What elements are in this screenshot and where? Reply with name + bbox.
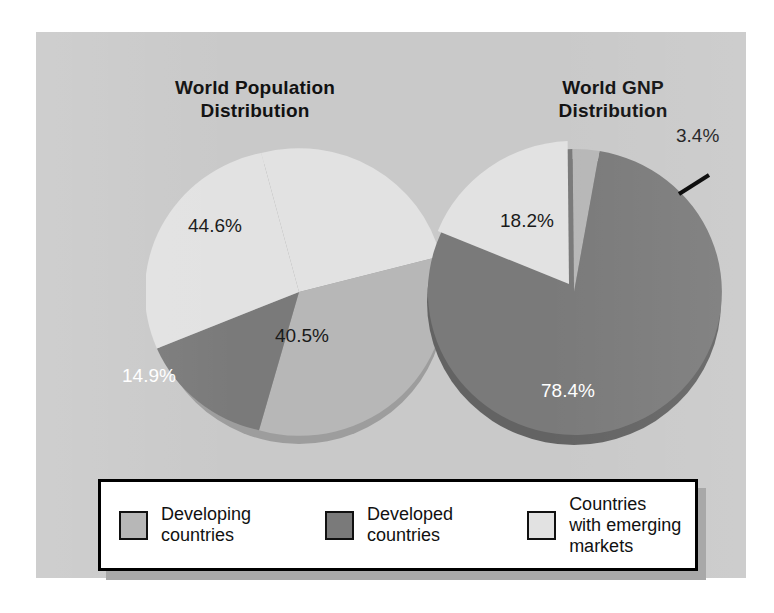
legend-swatch-developed-icon (325, 511, 354, 540)
pie-chart-world-gnp (421, 132, 737, 450)
chart-title-population: World Population Distribution (120, 76, 390, 122)
legend-swatch-emerging-icon (527, 511, 556, 540)
slice-label-gnp-developed: 78.4% (541, 380, 595, 402)
legend-swatch-developing-icon (119, 511, 148, 540)
legend-item-developing[interactable]: Developing countries (119, 504, 251, 546)
slice-label-population-developing: 40.5% (275, 325, 329, 347)
legend-label-developing: Developing countries (161, 504, 251, 546)
slice-label-population-emerging: 44.6% (188, 215, 242, 237)
legend-label-emerging: Countries with emerging markets (569, 494, 681, 557)
figure-root: World Population Distribution 44.6% 40.5… (0, 0, 774, 613)
pie-svg-population (146, 132, 452, 450)
legend-label-developed: Developed countries (367, 504, 453, 546)
chart-legend: Developing countries Developed countries… (98, 479, 698, 571)
slice-label-population-developed: 14.9% (122, 365, 176, 387)
pie-svg-gnp (421, 132, 737, 450)
legend-item-developed[interactable]: Developed countries (325, 504, 453, 546)
legend-item-emerging[interactable]: Countries with emerging markets (527, 494, 681, 557)
slice-label-gnp-developing: 3.4% (676, 125, 719, 147)
slice-label-gnp-emerging: 18.2% (500, 210, 554, 232)
pie-chart-world-population (146, 132, 452, 450)
chart-title-gnp: World GNP Distribution (488, 76, 738, 122)
leader-line-gnp-developing (679, 175, 709, 194)
